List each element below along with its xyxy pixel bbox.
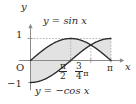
curve-label-negative-cosine: y = −cos x — [35, 86, 89, 96]
x-axis-label: x — [125, 62, 131, 72]
fraction-denominator: 4 — [75, 72, 83, 81]
fraction-pi-over-2: π 2 — [59, 62, 67, 81]
y-axis-arrowhead — [28, 24, 32, 29]
x-tick-label-pi: π — [107, 64, 113, 73]
x-tick-label-pi-over-2: π 2 — [59, 62, 67, 81]
origin-label: O — [16, 63, 24, 73]
fraction-suffix-pi: π — [83, 70, 89, 78]
figure-container: y x O 1 −1 π 2 3 4 π π y = sin x y = −co… — [0, 0, 136, 104]
curve-label-sine: y = sin x — [43, 16, 87, 26]
x-axis-arrowhead — [120, 58, 125, 62]
y-axis-label: y — [21, 2, 27, 12]
fraction-denominator: 2 — [59, 72, 67, 81]
y-tick-label-minus-1: −1 — [7, 79, 22, 89]
fraction-three-quarters: 3 4 — [75, 62, 83, 81]
y-tick-label-1: 1 — [16, 30, 22, 40]
x-tick-label-3pi-over-4: 3 4 π — [75, 62, 89, 81]
